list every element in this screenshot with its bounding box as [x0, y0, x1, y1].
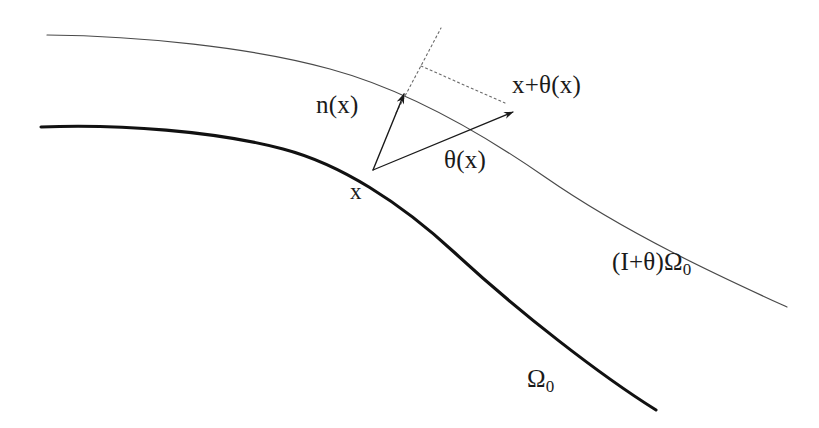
reference-domain-label-text: Ω — [527, 365, 546, 392]
perturbed-domain-label: (I+θ)Ω0 — [612, 249, 691, 278]
tangent-dotted-segment — [421, 66, 505, 103]
displacement-vector-label: θ(x) — [444, 147, 486, 172]
shape-perturbation-figure: n(x) θ(x) x x+θ(x) (I+θ)Ω0 Ω0 — [0, 0, 819, 428]
perturbed-domain-label-text: (I+θ)Ω — [612, 248, 683, 275]
displaced-point-label: x+θ(x) — [512, 72, 581, 97]
displacement-vector-arrow — [373, 112, 513, 170]
perturbed-domain-label-subscript: 0 — [683, 260, 692, 279]
reference-domain-label: Ω0 — [527, 366, 554, 395]
reference-boundary-curve — [41, 126, 656, 410]
reference-domain-label-subscript: 0 — [546, 377, 555, 396]
figure-canvas — [0, 0, 819, 428]
normal-vector-label: n(x) — [316, 92, 358, 117]
base-point-label: x — [350, 180, 362, 203]
normal-dotted-extension-line — [396, 28, 441, 113]
